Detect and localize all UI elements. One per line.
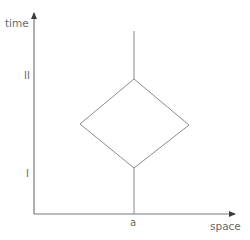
space-axis-label: space <box>210 220 241 232</box>
time-axis-label: time <box>5 17 29 29</box>
tick-label-I: I <box>26 168 29 179</box>
spacetime-diagram: time space II I a <box>0 0 250 240</box>
tick-label-II: II <box>24 70 30 81</box>
tick-label-a: a <box>130 217 136 228</box>
diamond-shape <box>80 79 189 168</box>
